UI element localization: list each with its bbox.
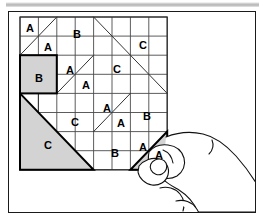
puzzle-illustration xyxy=(0,0,265,222)
illustration-stage: A A B C B A A C A A C B C B A A xyxy=(0,0,265,222)
fingertip xyxy=(150,159,167,175)
piece-b-square xyxy=(20,55,57,93)
